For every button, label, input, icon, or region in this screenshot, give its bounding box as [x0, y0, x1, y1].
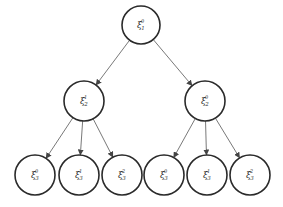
node-l3f: ξ23	[230, 155, 270, 195]
edge-l2b-to-l3d	[174, 118, 196, 157]
node-l3b: ξ13	[59, 155, 99, 195]
node-label: ξ13	[75, 168, 83, 181]
node-l3d: ξ03	[144, 155, 184, 195]
edge-l2a-to-l3a	[46, 117, 73, 158]
node-label: ξ03	[31, 168, 39, 181]
node-label: ξ13	[203, 168, 211, 181]
edge-root-to-l2b	[153, 39, 192, 86]
edge-l2b-to-l3f	[215, 117, 239, 157]
edge-l2b-to-l3e	[206, 120, 207, 155]
node-label: ξ03	[160, 168, 168, 181]
node-l2b: ξ02	[185, 81, 225, 121]
node-label: ξ23	[118, 168, 126, 181]
edge-l2a-to-l3b	[80, 120, 82, 155]
node-label: ξ12	[80, 94, 88, 107]
node-label: ξ02	[201, 94, 209, 107]
node-l3e: ξ13	[187, 155, 227, 195]
nodes-group: ξ01ξ12ξ02ξ03ξ13ξ23ξ03ξ13ξ23	[15, 6, 270, 195]
node-label: ξ01	[137, 18, 145, 31]
node-label: ξ23	[246, 168, 254, 181]
edge-root-to-l2a	[96, 39, 130, 84]
node-l3a: ξ03	[15, 155, 55, 195]
node-root: ξ01	[122, 6, 160, 44]
node-l2a: ξ12	[64, 81, 104, 121]
node-l3c: ξ23	[102, 155, 142, 195]
edge-l2a-to-l3c	[93, 118, 113, 157]
tree-diagram: ξ01ξ12ξ02ξ03ξ13ξ23ξ03ξ13ξ23	[0, 0, 283, 207]
